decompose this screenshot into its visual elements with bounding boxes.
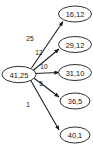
diagram-canvas: 25 12 10 5 1 41,25 16,12 29,12 31,10 36,…	[0, 0, 93, 150]
edge-label-1: 1	[26, 101, 30, 108]
edge-source-to-t3[interactable]	[34, 73, 59, 74]
node-t1[interactable]: 16,12	[59, 6, 92, 22]
node-t3-label: 31,10	[66, 69, 85, 78]
node-t5-label: 40,1	[68, 131, 82, 140]
edge-source-to-t5[interactable]	[31, 80, 60, 130]
edge-label-12: 12	[35, 49, 43, 56]
edge-source-to-t4[interactable]	[33, 77, 60, 97]
edge-label-5: 5	[39, 80, 43, 87]
directed-graph: 25 12 10 5 1 41,25 16,12 29,12 31,10 36,…	[0, 0, 93, 150]
node-source-label: 41,25	[10, 71, 29, 80]
node-t1-label: 16,12	[66, 10, 85, 19]
edge-label-25: 25	[26, 35, 34, 42]
edge-label-10: 10	[40, 63, 48, 70]
node-t4[interactable]: 36,5	[60, 93, 90, 109]
node-t4-label: 36,5	[68, 97, 82, 106]
node-t5[interactable]: 40,1	[60, 127, 90, 143]
node-source[interactable]: 41,25	[2, 66, 36, 82]
node-t2-label: 29,12	[66, 41, 85, 50]
node-t2[interactable]: 29,12	[59, 37, 92, 53]
node-t3[interactable]: 31,10	[59, 65, 92, 81]
